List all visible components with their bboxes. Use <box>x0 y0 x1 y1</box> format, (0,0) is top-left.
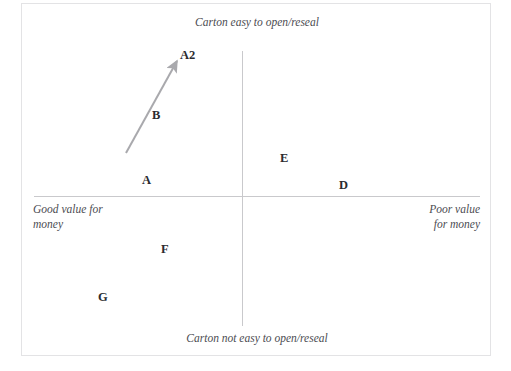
vertical-axis-line <box>242 51 243 326</box>
horizontal-axis-line <box>34 196 480 197</box>
axis-label-right: Poor value for money <box>332 202 480 232</box>
brand-point-g: G <box>98 291 108 304</box>
reposition-arrow-a-to-a2 <box>126 61 177 153</box>
brand-point-b: B <box>152 109 160 122</box>
perceptual-map-frame: Carton easy to open/reseal Carton not ea… <box>21 3 491 356</box>
brand-point-a: A <box>142 174 151 187</box>
axis-label-left: Good value for money <box>33 202 183 232</box>
axis-label-top: Carton easy to open/reseal <box>22 15 491 30</box>
brand-point-f: F <box>161 243 169 256</box>
repositioning-arrow-layer <box>22 4 491 356</box>
axis-label-bottom: Carton not easy to open/reseal <box>22 331 491 346</box>
brand-point-a2: A2 <box>180 49 195 62</box>
brand-point-d: D <box>339 179 348 192</box>
brand-point-e: E <box>280 152 288 165</box>
